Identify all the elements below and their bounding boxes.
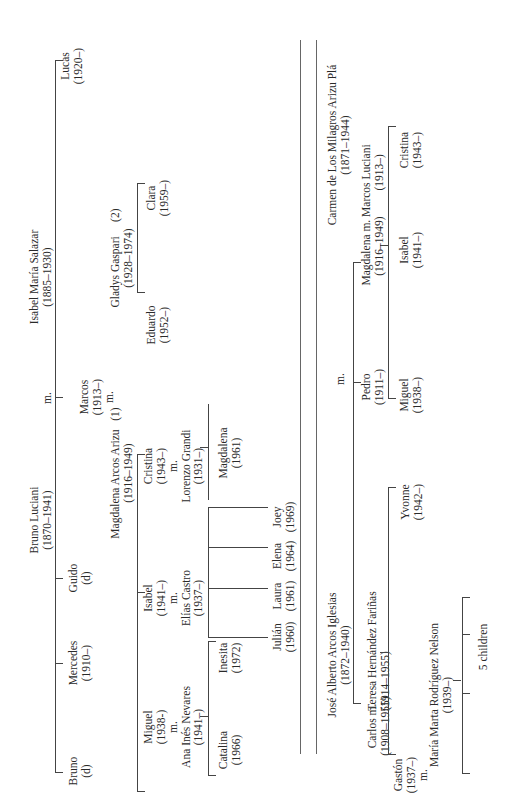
patriarch-dates: (1870–1941) xyxy=(40,487,53,554)
separator-line-right xyxy=(316,40,317,754)
tree1-tick-mercedes xyxy=(55,663,63,664)
bracket-tick-2 xyxy=(462,693,470,694)
carlos-children-spine xyxy=(388,487,389,754)
tick-gaston xyxy=(388,754,396,755)
tick-carlos-couple xyxy=(380,652,388,653)
tick-cristina2 xyxy=(388,126,396,127)
tick-laura xyxy=(208,588,268,589)
tree1-tick-bruno xyxy=(55,772,63,773)
patriarch-name: Bruno Luciani xyxy=(28,487,41,554)
tick-elena xyxy=(208,547,268,548)
matriarch-name: Isabel María Salazar xyxy=(28,230,41,325)
tick-inesita xyxy=(208,641,216,642)
magdalena-children-spine xyxy=(388,126,389,398)
tree1-tick-marcos xyxy=(55,397,63,398)
tree2-children-spine xyxy=(353,262,354,703)
isabel-children-spine xyxy=(208,507,209,637)
matriarch-dates: (1885–1930) xyxy=(40,230,53,325)
tick-eduardo xyxy=(137,292,145,293)
tree1-gc1-spine xyxy=(137,454,138,791)
separator-line-left xyxy=(300,40,301,754)
tick-miguel-couple xyxy=(200,716,208,717)
cristina-children-spine xyxy=(208,404,209,500)
bracket-bottom xyxy=(462,773,470,774)
bracket-tick-1 xyxy=(462,634,470,635)
tree1-tick-guido xyxy=(55,578,63,579)
bracket-top xyxy=(462,597,470,598)
tick-catalina xyxy=(208,775,216,776)
tick-gaston-couple xyxy=(453,680,461,681)
tick-yvonne xyxy=(388,487,396,488)
tick-miguel xyxy=(137,791,145,792)
tick-magdalena-couple xyxy=(380,245,388,246)
tick-carlos xyxy=(353,703,361,704)
tree1-children-spine xyxy=(55,60,56,772)
tick-julian xyxy=(208,637,268,638)
gaston-children-bracket xyxy=(462,597,463,773)
tree1-gc2-spine xyxy=(137,183,138,292)
tick-miguel2 xyxy=(388,398,396,399)
miguel-children-spine xyxy=(208,641,209,775)
tick-joey xyxy=(208,507,268,508)
tick-cristina-couple xyxy=(200,447,208,448)
